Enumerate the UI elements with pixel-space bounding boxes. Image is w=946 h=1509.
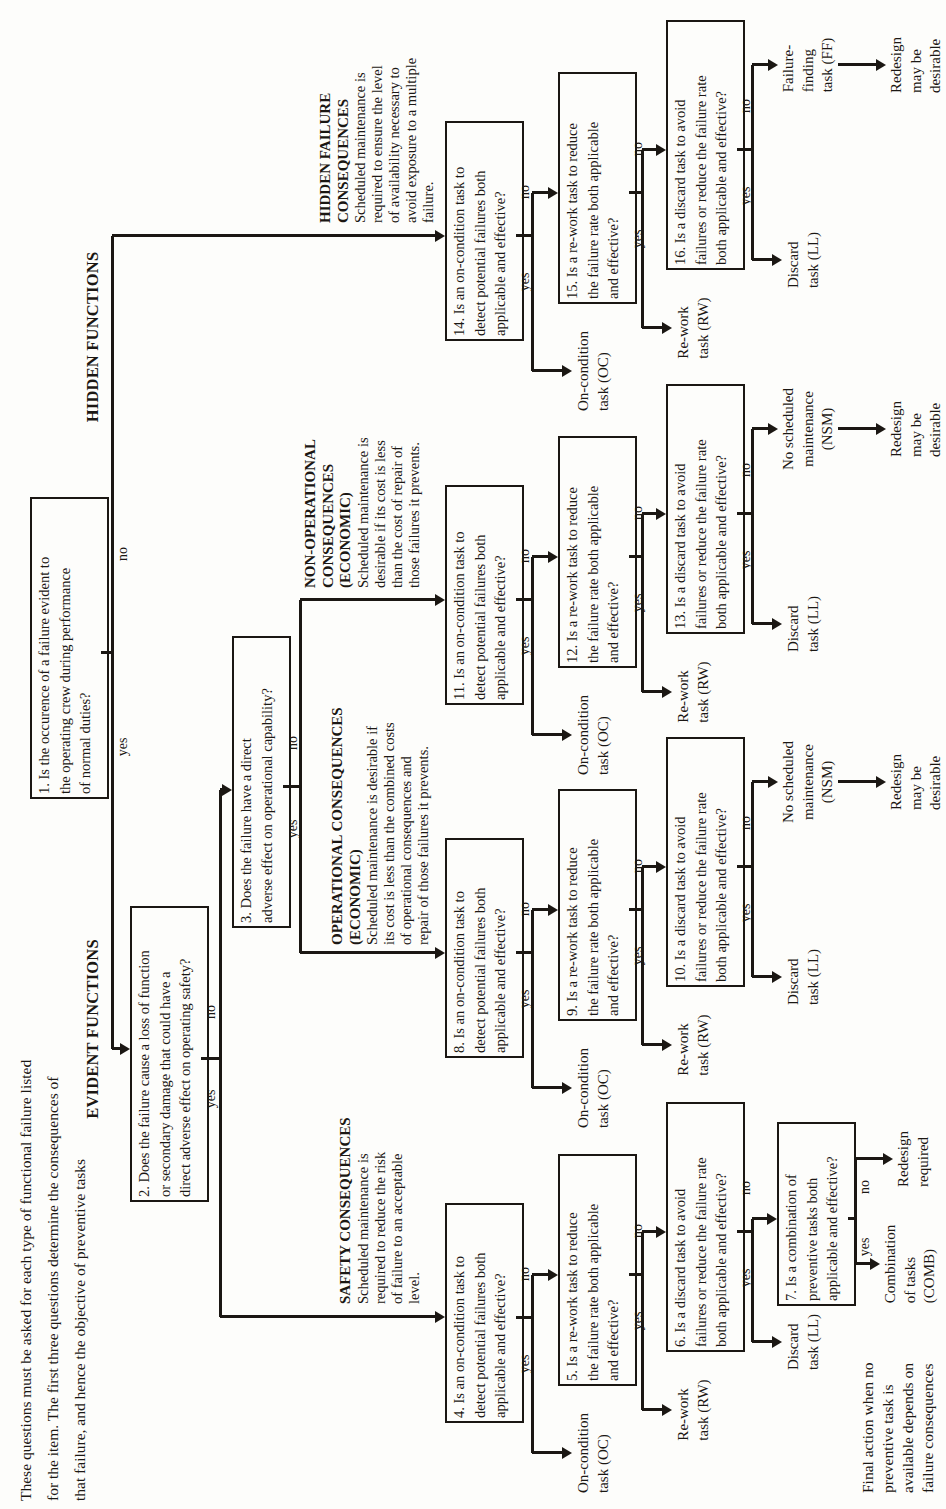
question-box-8: 8. Is an on-condition task to detect pot…: [445, 838, 524, 1058]
arrow-head: [772, 619, 782, 631]
outcome-redesign-operational: Redesign may be desirable: [887, 754, 946, 810]
consequence-body-operational: Scheduled maintenance is desirable if it…: [364, 675, 432, 945]
drop-on-condition-hidden: [532, 370, 564, 373]
outcome-redesign-hidden: Redesign may be desirable: [887, 37, 946, 93]
consequence-block-operational: OPERATIONAL CONSEQUENCES (ECONOMIC)Sched…: [329, 675, 432, 945]
decision-diagram-sheet: These questions must be asked for each t…: [0, 0, 946, 1509]
outcome-on-condition-non-operational: On-condition task (OC): [574, 695, 613, 775]
rail-question-box-11: [531, 557, 534, 735]
drop-re-work-operational: [642, 1044, 664, 1047]
drop-discard-hidden: [752, 259, 774, 262]
question-box-4: 4. Is an on-condition task to detect pot…: [445, 1203, 524, 1423]
arrow-head: [562, 730, 572, 742]
question-box-1: 1. Is the occurence of a failure evident…: [30, 497, 109, 799]
arrow-head: [768, 777, 778, 789]
arrow-head: [772, 972, 782, 984]
arrow-head: [772, 255, 782, 267]
rail-question-box-15: [641, 150, 644, 328]
outcome-redesign-non-operational: Redesign may be desirable: [887, 401, 946, 457]
label-no-q2: no: [203, 1005, 219, 1019]
outcome-discard-non-operational: Discard task (LL): [784, 596, 823, 652]
arrow-head: [870, 1259, 880, 1271]
question-box-15: 15. Is a re-work task to reduce the fail…: [558, 72, 637, 304]
question-box-16: 16. Is a discard task to avoid failures …: [666, 20, 745, 270]
arrow-head: [768, 60, 778, 72]
drop-discard-non-operational: [752, 623, 774, 626]
label-yes-q1: yes: [115, 738, 131, 757]
arrow-head: [548, 552, 558, 564]
drop-discard-safety: [752, 1341, 774, 1344]
drop-re-work-safety: [642, 1409, 664, 1412]
outcome-discard-safety: Discard task (LL): [784, 1314, 823, 1370]
drop-re-work-hidden: [642, 327, 664, 330]
rail-question-box-9: [641, 867, 644, 1045]
feed-hidden: [112, 235, 436, 238]
label-yes-question-box-9: yes: [630, 947, 646, 966]
outcome-discard-hidden: Discard task (LL): [784, 232, 823, 288]
outcome-re-work-non-operational: Re-work task (RW): [674, 661, 713, 722]
consequence-block-non-operational: NON-OPERATIONAL CONSEQUENCES (ECONOMIC)S…: [302, 388, 423, 588]
question-box-12: 12. Is a re-work task to reduce the fail…: [558, 436, 637, 668]
arrow-head: [548, 188, 558, 200]
rail-question-box-10: [751, 782, 754, 977]
outcome-on-condition-hidden: On-condition task (OC): [574, 331, 613, 411]
rail-question-box-13: [751, 429, 754, 624]
drop-on-condition-safety: [532, 1452, 564, 1455]
drop-redesign-required-safety: [855, 1158, 885, 1161]
arrow-head: [662, 1405, 672, 1417]
consequence-body-non-operational: Scheduled maintenance is desirable if it…: [355, 388, 423, 588]
arrow-head: [548, 1270, 558, 1282]
question-box-11: 11. Is an on-condition task to detect po…: [445, 485, 524, 705]
consequence-heading-non-operational: NON-OPERATIONAL CONSEQUENCES (ECONOMIC): [302, 388, 355, 588]
stub-q3: [283, 786, 300, 789]
label-yes-question-box-7: yes: [857, 1238, 873, 1257]
rail-q2: [219, 790, 222, 1317]
arrow-head: [656, 1227, 666, 1239]
arrow-head: [562, 1083, 572, 1095]
drop-redesign-operational: [838, 781, 878, 784]
rail-q1: [111, 236, 114, 1049]
consequence-body-hidden: Scheduled maintenance is required to ens…: [352, 18, 437, 223]
arrow-head: [435, 595, 445, 607]
outcome-combination-safety: Combination of tasks (COMB): [881, 1225, 940, 1303]
arrow-head: [562, 1448, 572, 1460]
arrow-head: [767, 1214, 777, 1226]
drop-re-work-non-operational: [642, 691, 664, 694]
label-yes-question-box-12: yes: [630, 594, 646, 613]
drop-redesign-hidden: [838, 64, 878, 67]
final-action-note: Final action when no preventive task is …: [858, 1313, 938, 1493]
arrow-head: [662, 687, 672, 699]
arrow-head: [435, 948, 445, 960]
rail-question-box-14: [531, 193, 534, 371]
arrow-head: [656, 509, 666, 521]
drop-on-condition-non-operational: [532, 734, 564, 737]
drop-redesign-non-operational: [838, 428, 878, 431]
hidden-functions-label: HIDDEN FUNCTIONS: [83, 252, 103, 423]
arrow-head: [656, 145, 666, 157]
outcome-terminal-hidden: Failure- finding task (FF): [779, 38, 838, 93]
rail-question-box-5: [641, 1232, 644, 1410]
consequence-heading-safety: SAFETY CONSEQUENCES: [337, 1099, 355, 1304]
question-box-7: 7. Is a combination of preventive tasks …: [777, 1122, 856, 1306]
arrow-head: [222, 785, 232, 797]
rail-q3: [299, 600, 302, 953]
rail-question-box-6: [751, 1219, 754, 1342]
outcome-on-condition-safety: On-condition task (OC): [574, 1413, 613, 1493]
arrow-head: [876, 777, 886, 789]
consequence-block-hidden: HIDDEN FAILURE CONSEQUENCESScheduled mai…: [317, 18, 437, 223]
arrow-head: [435, 1312, 445, 1324]
stub-q2: [201, 1058, 220, 1061]
label-no-q1: no: [115, 547, 131, 561]
rail-question-box-4: [531, 1275, 534, 1453]
outcome-re-work-hidden: Re-work task (RW): [674, 297, 713, 358]
label-no-question-box-6: no: [738, 1181, 754, 1195]
question-box-6: 6. Is a discard task to avoid failures o…: [666, 1102, 745, 1352]
rail-question-box-16: [751, 65, 754, 260]
arrow-head: [768, 424, 778, 436]
feed-non-operational: [300, 599, 436, 602]
drop-discard-operational: [752, 976, 774, 979]
arrow-head: [876, 424, 886, 436]
arrow-head: [883, 1154, 893, 1166]
label-yes-q2: yes: [203, 1090, 219, 1109]
consequence-body-safety: Scheduled maintenance is required to red…: [355, 1099, 423, 1304]
